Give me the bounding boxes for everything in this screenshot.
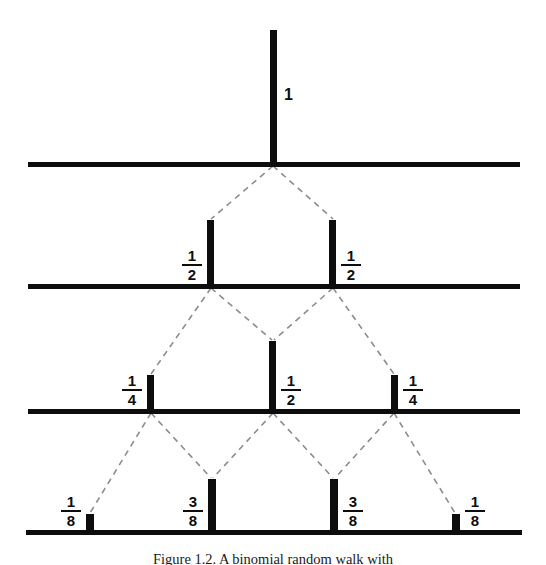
fraction-numerator: 3 [182,494,204,510]
figure-caption: Figure 1.2. A binomial random walk with [0,551,546,565]
connector-line [213,413,273,478]
probability-label: 18 [60,494,82,528]
connector-line [151,288,211,374]
probability-bar [270,30,277,164]
probability-bar [329,220,336,286]
fraction-denominator: 2 [182,264,202,282]
connector-line [90,413,151,513]
connector-line [211,166,273,219]
probability-bar [269,341,276,411]
probability-label: 18 [464,494,486,528]
probability-bar [207,220,214,286]
probability-label: 38 [342,494,364,528]
fraction-numerator: 1 [181,248,203,264]
fraction-numerator: 1 [280,373,302,389]
fraction-denominator: 2 [281,389,301,407]
fraction-denominator: 8 [61,510,81,528]
connector-line [211,288,272,340]
fraction-denominator: 4 [122,389,142,407]
connector-line [335,413,394,478]
probability-bar [208,479,216,532]
probability-label: 12 [280,373,302,407]
fraction-numerator: 1 [121,373,143,389]
connector-line [151,413,211,478]
probability-label: 12 [181,248,203,282]
probability-bar [147,375,154,411]
fraction-numerator: 1 [340,248,362,264]
probability-label: 1 [284,87,293,103]
connector-line [273,166,333,219]
connector-line [333,288,394,374]
fraction-numerator: 1 [464,494,486,510]
figure-container: 1121214121418383818 Figure 1.2. A binomi… [0,0,546,565]
fraction-denominator: 8 [343,510,363,528]
probability-label: 38 [182,494,204,528]
connector-line [394,413,455,513]
fraction-numerator: 1 [60,494,82,510]
probability-label: 14 [121,373,143,407]
probability-bar [330,479,338,532]
fraction-numerator: 1 [402,373,424,389]
level-4-baseline [26,530,522,535]
fraction-numerator: 3 [342,494,364,510]
probability-bar [391,375,398,411]
connector-line [273,413,333,478]
level-2-baseline [28,284,520,289]
probability-label: 12 [340,248,362,282]
probability-bar [452,514,460,532]
probability-bar [86,514,94,532]
connector-line [274,288,333,340]
fraction-denominator: 8 [183,510,203,528]
fraction-denominator: 2 [341,264,361,282]
probability-label: 14 [402,373,424,407]
fraction-denominator: 4 [403,389,423,407]
fraction-denominator: 8 [465,510,485,528]
